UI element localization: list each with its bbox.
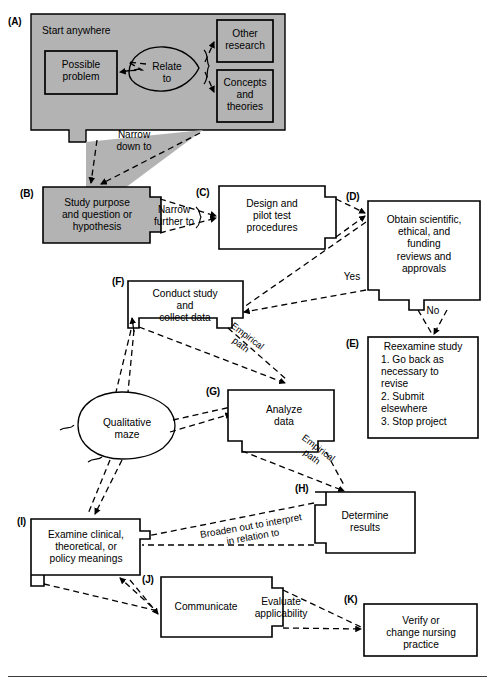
node-possible-problem	[45, 51, 117, 94]
node-qualitative-maze	[78, 392, 175, 459]
edge-label-narrow-down-to: Narrow down to	[104, 129, 164, 152]
node-j	[161, 577, 283, 637]
node-other-research	[217, 20, 273, 62]
node-b	[43, 187, 161, 243]
node-e-item-3: 3. Stop project	[381, 416, 481, 428]
tag-b: (B)	[20, 188, 33, 199]
tag-c: (C)	[196, 187, 209, 198]
node-e-item-2: 2. Submit elsewhere	[381, 391, 481, 415]
node-d	[368, 201, 480, 310]
node-h	[315, 492, 415, 553]
bottom-rule	[8, 676, 487, 677]
edge-label-narrow-further-to: Narrow further to	[146, 204, 202, 227]
tag-a: (A)	[8, 16, 21, 27]
edge-label-yes: Yes	[337, 271, 367, 283]
tag-f: (F)	[112, 276, 124, 287]
node-c	[219, 186, 336, 249]
node-k	[364, 604, 477, 656]
node-e-item-1: 1. Go back as necessary to revise	[381, 354, 481, 391]
tag-e: (E)	[346, 338, 359, 349]
tag-d: (D)	[346, 191, 359, 202]
tag-j: (J)	[142, 574, 154, 585]
figure-canvas: (A) (B) (C) (D) (E) (F) (G) (H) (I) (J) …	[0, 0, 495, 684]
tag-i: (I)	[17, 516, 26, 527]
tag-g: (G)	[206, 386, 220, 397]
node-concepts-theories	[217, 70, 273, 122]
edge-label-no: No	[418, 305, 448, 317]
node-i	[31, 519, 150, 586]
tag-h: (H)	[295, 483, 308, 494]
tag-k: (K)	[344, 594, 357, 605]
